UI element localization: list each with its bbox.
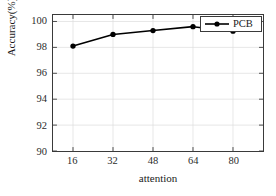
plot-area <box>52 14 264 152</box>
legend-line-marker-icon <box>204 18 230 30</box>
y-axis-tick-label: 96 <box>37 68 48 79</box>
x-axis-tick-label: 32 <box>107 156 118 167</box>
x-axis-tick-label: 80 <box>228 156 239 167</box>
chart-figure: Accuracy(%) 9092949698100 1632486480 att… <box>0 0 276 196</box>
y-axis-tick-label: 92 <box>37 120 48 131</box>
legend-entry-label: PCB <box>233 19 253 30</box>
y-axis-tick-label: 98 <box>37 42 48 53</box>
x-axis-tick-labels: 1632486480 <box>52 156 264 170</box>
x-axis-tick-label: 48 <box>148 156 159 167</box>
y-axis-tick-label: 90 <box>37 147 48 158</box>
x-axis-tick-label: 64 <box>188 156 199 167</box>
legend-box: PCB <box>200 16 262 32</box>
x-axis-title: attention <box>52 172 264 184</box>
x-axis-tick-label: 16 <box>67 156 78 167</box>
y-axis-tick-label: 100 <box>31 15 47 26</box>
y-axis-tick-label: 94 <box>37 94 48 105</box>
y-axis-tick-labels: 9092949698100 <box>0 14 47 152</box>
data-series-pcb <box>53 15 263 151</box>
